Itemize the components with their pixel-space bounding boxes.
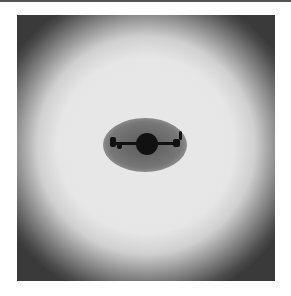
left-arm-blob	[117, 143, 122, 149]
left-arm-blob	[110, 137, 116, 147]
top-border-line	[0, 0, 291, 2]
image-frame	[17, 15, 275, 281]
right-arm-blob	[173, 139, 180, 147]
central-dark-disk	[136, 133, 158, 155]
right-arm-blob	[179, 131, 182, 140]
